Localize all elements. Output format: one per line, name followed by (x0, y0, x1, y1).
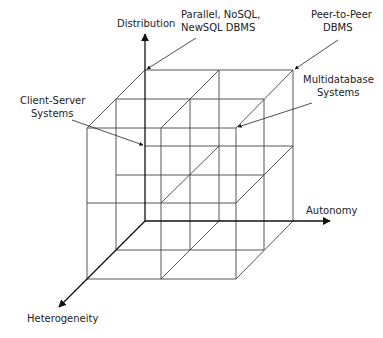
client-server-label-line2: Systems (31, 108, 74, 119)
annotation-pointers (72, 38, 338, 145)
heterogeneity-axis (59, 221, 145, 307)
dbms-classification-cube: Distribution Autonomy Heterogeneity Para… (0, 0, 383, 338)
parallel-label-line1: Parallel, NoSQL, (181, 9, 260, 20)
parallel-pointer (147, 38, 196, 69)
p2p-label-line1: Peer-to-Peer (311, 9, 373, 20)
parallel-label-line2: NewSQL DBMS (181, 22, 255, 33)
client-server-pointer (72, 120, 143, 145)
multidb-label-line1: Multidatabase (303, 74, 374, 85)
multidb-label-line2: Systems (317, 87, 360, 98)
client-server-label-line1: Client-Server (20, 95, 86, 106)
distribution-label: Distribution (117, 18, 175, 29)
p2p-pointer (295, 40, 338, 69)
autonomy-label: Autonomy (306, 205, 357, 216)
heterogeneity-label: Heterogeneity (27, 313, 98, 324)
p2p-label-line2: DBMS (323, 22, 353, 33)
